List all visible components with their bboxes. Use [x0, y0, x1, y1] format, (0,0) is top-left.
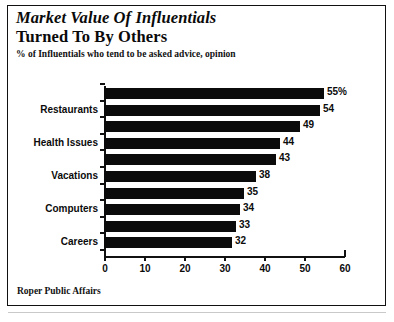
bar	[104, 121, 300, 132]
x-axis-tick-label: 60	[330, 263, 360, 275]
bar-value-label: 43	[279, 152, 290, 164]
bar	[104, 88, 324, 99]
x-axis-tick-label: 50	[290, 263, 320, 275]
bar	[104, 221, 236, 232]
category-label: Restaurants	[40, 104, 98, 116]
x-axis-tick	[344, 250, 346, 257]
x-axis-tick	[264, 256, 266, 261]
chart-header: Market Value Of Influentials Turned To B…	[16, 8, 356, 60]
bar	[104, 154, 276, 165]
x-axis-tick-label: 10	[130, 263, 160, 275]
plot-area: 55%544944433835343332	[104, 88, 344, 254]
x-axis-tick	[184, 256, 186, 261]
bar	[104, 105, 320, 116]
category-label: Careers	[61, 236, 98, 248]
bar	[104, 237, 232, 248]
chart-title-line-2: Turned To By Others	[16, 27, 356, 46]
chart-page: Market Value Of Influentials Turned To B…	[0, 0, 394, 322]
source-note: Roper Public Affairs	[17, 285, 101, 297]
bar-value-label: 55%	[327, 86, 347, 98]
x-axis-tick-label: 30	[210, 263, 240, 275]
bottom-rule	[8, 312, 386, 313]
bar-value-label: 44	[283, 136, 294, 148]
y-axis-tick	[100, 83, 105, 85]
x-axis-tick	[224, 256, 226, 261]
x-axis-tick	[104, 256, 106, 261]
bar-value-label: 49	[303, 119, 314, 131]
category-label: Health Issues	[34, 137, 98, 149]
x-axis-tick-label: 40	[250, 263, 280, 275]
chart-title-line-1: Market Value Of Influentials	[16, 8, 356, 27]
bar	[104, 188, 244, 199]
bar-value-label: 54	[323, 103, 334, 115]
category-label: Computers	[45, 203, 98, 215]
category-axis-labels: RestaurantsHealth IssuesVacationsCompute…	[0, 88, 98, 256]
chart-subtitle: % of Influentials who tend to be asked a…	[16, 48, 356, 60]
x-axis-tick-label: 0	[90, 263, 120, 275]
bar-value-label: 33	[239, 219, 250, 231]
bar	[104, 138, 280, 149]
bar	[104, 171, 256, 182]
bar-value-label: 34	[243, 202, 254, 214]
x-axis-tick	[304, 256, 306, 261]
bar-value-label: 32	[235, 235, 246, 247]
bar	[104, 204, 240, 215]
bar-value-label: 35	[247, 186, 258, 198]
x-axis-tick	[144, 256, 146, 261]
x-axis-tick-label: 20	[170, 263, 200, 275]
category-label: Vacations	[51, 170, 98, 182]
bar-value-label: 38	[259, 169, 270, 181]
